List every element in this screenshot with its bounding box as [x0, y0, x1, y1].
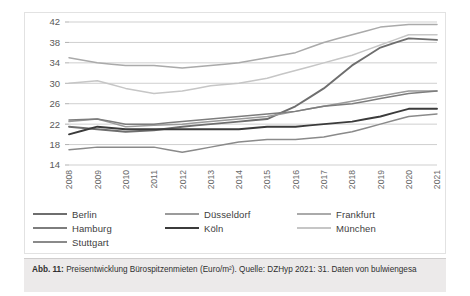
legend-label-muenchen: München	[336, 223, 376, 234]
chart-legend: Berlin Düsseldorf Frankfurt Hamburg Köln…	[33, 207, 439, 253]
svg-text:42: 42	[49, 16, 60, 27]
legend-item-frankfurt[interactable]: Frankfurt	[297, 207, 429, 221]
svg-text:2011: 2011	[149, 170, 159, 189]
legend-swatch-duesseldorf	[165, 213, 199, 215]
svg-text:2019: 2019	[376, 170, 386, 189]
caption-number: Abb. 11:	[32, 265, 64, 274]
legend-swatch-hamburg	[33, 227, 67, 229]
legend-swatch-stuttgart	[33, 241, 67, 243]
plot-area: 1418222630343842200820092010201120122013…	[25, 13, 447, 209]
svg-text:2017: 2017	[319, 170, 329, 189]
svg-text:34: 34	[49, 57, 60, 68]
legend-label-stuttgart: Stuttgart	[72, 237, 109, 248]
svg-text:2014: 2014	[234, 170, 244, 189]
chart-card: 1418222630343842200820092010201120122013…	[24, 12, 446, 254]
legend-item-stuttgart[interactable]: Stuttgart	[33, 235, 165, 249]
svg-text:38: 38	[49, 37, 60, 48]
svg-text:26: 26	[49, 98, 60, 109]
svg-text:30: 30	[49, 78, 60, 89]
legend-swatch-frankfurt	[297, 213, 331, 215]
legend-swatch-muenchen	[297, 227, 331, 229]
legend-swatch-berlin	[33, 213, 67, 215]
figure-container: 1418222630343842200820092010201120122013…	[0, 0, 470, 296]
legend-swatch-koeln	[165, 227, 199, 229]
legend-label-frankfurt: Frankfurt	[336, 209, 375, 220]
line-chart-svg: 1418222630343842200820092010201120122013…	[25, 13, 447, 209]
svg-text:2015: 2015	[262, 170, 272, 189]
svg-text:18: 18	[49, 139, 60, 150]
svg-text:2013: 2013	[206, 170, 216, 189]
svg-text:2016: 2016	[291, 170, 301, 189]
svg-text:2018: 2018	[347, 170, 357, 189]
figure-caption: Abb. 11: Preisentwicklung Bürospitzenmie…	[24, 258, 446, 292]
svg-text:2012: 2012	[178, 170, 188, 189]
legend-label-koeln: Köln	[204, 223, 223, 234]
legend-item-duesseldorf[interactable]: Düsseldorf	[165, 207, 297, 221]
legend-item-berlin[interactable]: Berlin	[33, 207, 165, 221]
legend-item-hamburg[interactable]: Hamburg	[33, 221, 165, 235]
legend-item-koeln[interactable]: Köln	[165, 221, 297, 235]
svg-text:2021: 2021	[432, 170, 442, 189]
legend-label-berlin: Berlin	[72, 209, 97, 220]
svg-text:2009: 2009	[93, 170, 103, 189]
svg-text:22: 22	[49, 119, 60, 130]
svg-text:2020: 2020	[404, 170, 414, 189]
svg-text:2010: 2010	[121, 170, 131, 189]
legend-label-hamburg: Hamburg	[72, 223, 112, 234]
legend-item-muenchen[interactable]: München	[297, 221, 429, 235]
svg-text:14: 14	[49, 159, 60, 170]
caption-text: Preisentwicklung Bürospitzenmieten (Euro…	[64, 265, 417, 274]
svg-text:2008: 2008	[64, 170, 74, 189]
legend-label-duesseldorf: Düsseldorf	[204, 209, 250, 220]
